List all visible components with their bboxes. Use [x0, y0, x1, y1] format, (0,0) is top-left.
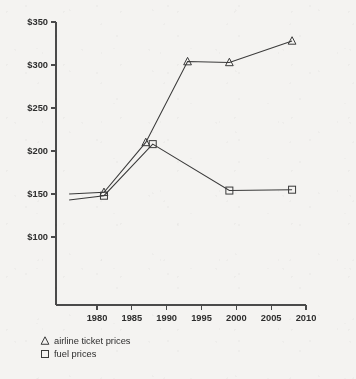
x-axis-ticks [97, 305, 306, 310]
y-tick-label-100: $100 [27, 232, 48, 242]
x-tick-label-1985: 1985 [121, 313, 142, 323]
y-tick-label-350: $350 [27, 17, 48, 27]
x-tick-label-1980: 1980 [87, 313, 108, 323]
series-line-airline-ticket-prices [69, 41, 292, 194]
chart-figure: $100$150$200$250$300$350 198019851990199… [0, 0, 356, 379]
y-tick-label-300: $300 [27, 60, 48, 70]
legend-label-0: airline ticket prices [54, 336, 131, 346]
data-point-airline-ticket-prices-2008 [288, 37, 296, 44]
y-tick-label-200: $200 [27, 146, 48, 156]
x-tick-label-1995: 1995 [191, 313, 212, 323]
x-axis-tick-labels: 1980198519901995200020052010 [87, 313, 317, 323]
legend-label-1: fuel prices [54, 349, 97, 359]
y-tick-label-150: $150 [27, 189, 48, 199]
legend-marker-triangle [41, 337, 49, 344]
series-lines [69, 41, 292, 200]
y-axis-ticks [51, 22, 56, 237]
legend-marker-square [42, 351, 49, 358]
y-axis-tick-labels: $100$150$200$250$300$350 [27, 17, 48, 242]
y-tick-label-250: $250 [27, 103, 48, 113]
series-markers [100, 37, 296, 200]
chart-legend: airline ticket pricesfuel prices [41, 336, 131, 359]
x-tick-label-2005: 2005 [261, 313, 282, 323]
line-chart: $100$150$200$250$300$350 198019851990199… [0, 0, 356, 379]
x-tick-label-2010: 2010 [296, 313, 317, 323]
x-tick-label-2000: 2000 [226, 313, 247, 323]
x-tick-label-1990: 1990 [156, 313, 177, 323]
